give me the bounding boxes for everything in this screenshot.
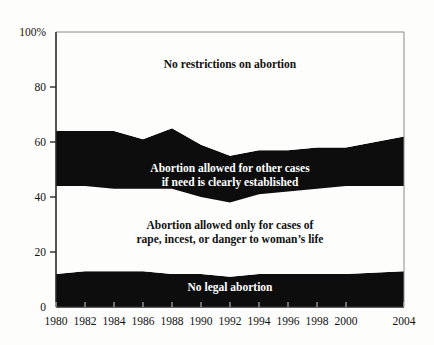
y-tick-label-40: 40 xyxy=(35,191,47,203)
y-tick-label-100: 100% xyxy=(19,26,46,38)
band-label-no-legal-abortion: No legal abortion xyxy=(188,281,274,294)
y-tick-label-80: 80 xyxy=(35,81,47,93)
x-tick-label-1990: 1990 xyxy=(190,315,213,327)
x-tick-label-1984: 1984 xyxy=(103,315,126,327)
x-tick-label-2004: 2004 xyxy=(393,315,416,327)
x-tick-label-1996: 1996 xyxy=(277,315,300,327)
y-tick-label-0: 0 xyxy=(40,301,46,313)
band-label-other-cases-line2: if need is clearly established xyxy=(162,176,299,189)
band-label-no-restrictions: No restrictions on abortion xyxy=(164,58,297,70)
band-label-rape-incest-line2: rape, incest, or danger to woman’s life xyxy=(137,233,324,246)
x-tick-label-1994: 1994 xyxy=(248,315,271,327)
band-label-rape-incest-line1: Abortion allowed only for cases of xyxy=(147,219,314,232)
y-tick-label-20: 20 xyxy=(35,246,47,258)
x-tick-label-1992: 1992 xyxy=(219,315,242,327)
x-tick-label-1988: 1988 xyxy=(161,315,184,327)
x-tick-label-1986: 1986 xyxy=(132,315,155,327)
chart-canvas: 020406080100% 19801982198419861988199019… xyxy=(0,0,434,345)
x-tick-label-1998: 1998 xyxy=(306,315,329,327)
x-tick-label-2000: 2000 xyxy=(335,315,358,327)
band-label-other-cases-line1: Abortion allowed for other cases xyxy=(150,162,310,174)
y-tick-label-60: 60 xyxy=(35,136,47,148)
stacked-area-chart: 020406080100% 19801982198419861988199019… xyxy=(0,0,434,345)
x-tick-label-1982: 1982 xyxy=(74,315,97,327)
x-tick-label-1980: 1980 xyxy=(45,315,68,327)
